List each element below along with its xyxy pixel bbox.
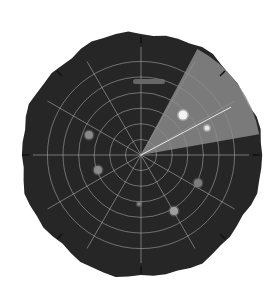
radar-blip — [85, 131, 93, 139]
radar-blip — [194, 179, 202, 187]
radar-blip — [170, 207, 178, 215]
radar-illustration — [0, 0, 277, 304]
radar-streak — [133, 79, 165, 84]
radar-streak — [133, 79, 165, 84]
radar-blip — [179, 111, 188, 120]
radar-blip — [137, 202, 141, 206]
radar-blip — [94, 166, 102, 174]
radar-blip — [205, 126, 210, 131]
